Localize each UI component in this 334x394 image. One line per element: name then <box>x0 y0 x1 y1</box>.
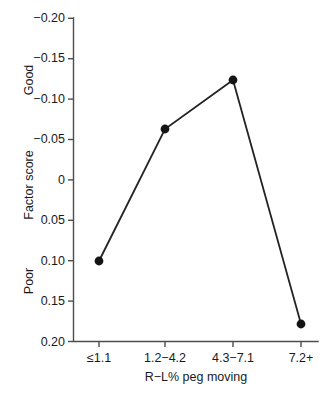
data-point-3 <box>297 320 306 329</box>
y-anchor-label-poor: Poor <box>22 268 36 294</box>
y-tick-label-0: −0.20 <box>33 11 65 25</box>
y-tick-label-1: −0.15 <box>33 51 65 65</box>
line-chart: −0.20 −0.15 −0.10 −0.05 0 0.05 0.10 0.15… <box>0 0 334 394</box>
data-point-0 <box>95 257 104 266</box>
x-tick-label-3: 7.2+ <box>289 351 314 365</box>
x-tick-label-1: 1.2−4.2 <box>144 351 186 365</box>
y-tick-label-2: −0.10 <box>33 92 65 106</box>
x-tick-label-0: ≤1.1 <box>87 351 111 365</box>
y-axis-title: Factor score <box>22 150 36 220</box>
y-tick-label-7: 0.15 <box>41 294 65 308</box>
data-point-2 <box>229 76 238 85</box>
figure-container: −0.20 −0.15 −0.10 −0.05 0 0.05 0.10 0.15… <box>0 0 334 394</box>
y-anchor-label-good: Good <box>22 65 36 96</box>
x-tick-label-2: 4.3−7.1 <box>212 351 254 365</box>
x-axis-title: R−L% peg moving <box>145 370 248 384</box>
y-tick-label-6: 0.10 <box>41 254 65 268</box>
y-tick-label-5: 0.05 <box>41 213 65 227</box>
y-tick-label-4: 0 <box>58 173 65 187</box>
data-point-1 <box>161 125 170 134</box>
y-tick-label-3: −0.05 <box>33 132 65 146</box>
y-tick-label-8: 0.20 <box>41 335 65 349</box>
